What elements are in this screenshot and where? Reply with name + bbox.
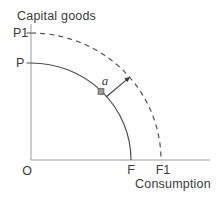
x-axis-title: Consumption <box>135 177 211 191</box>
ppf-figure: Capital goods P1 P a O F F1 Consumption <box>0 0 218 200</box>
origin-label: O <box>22 164 32 178</box>
shifted-frontier-curve <box>31 33 161 160</box>
p1-label: P1 <box>13 26 28 40</box>
point-a-label: a <box>102 73 109 88</box>
initial-frontier-curve <box>31 63 131 160</box>
ppf-diagram-canvas: Capital goods P1 P a O F F1 Consumption <box>0 0 218 200</box>
f1-label: F1 <box>156 163 171 177</box>
p-label: P <box>16 56 24 70</box>
f-label: F <box>127 163 135 177</box>
y-axis-title: Capital goods <box>17 9 96 23</box>
shift-arrow-shaft <box>106 80 127 97</box>
point-a-marker <box>98 89 104 95</box>
